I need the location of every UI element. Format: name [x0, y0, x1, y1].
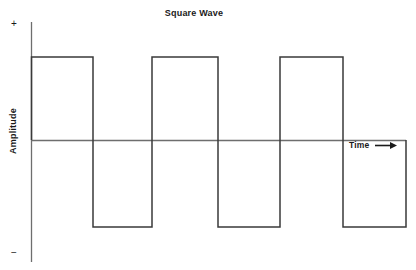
square-wave-figure: Square Wave Amplitude + − Time [0, 0, 416, 270]
square-wave-trace [32, 57, 407, 227]
waveform-plot [0, 0, 416, 270]
